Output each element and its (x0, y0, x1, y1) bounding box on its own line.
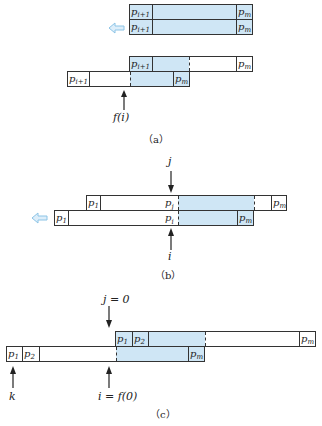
cell-1: p1 (116, 332, 133, 346)
text-row-a4: pi+1 pm (67, 71, 190, 87)
up-arrow-icon (9, 366, 17, 388)
cell-2: p2 (23, 347, 40, 361)
dashed-divider (130, 72, 131, 86)
pointer-label-f-i: f(i) (113, 111, 129, 124)
cell-right: pm (299, 332, 315, 346)
text-row-c2: p1 p2 pm (6, 346, 205, 362)
pointer-label-j0: j = 0 (103, 293, 130, 306)
cell-left: p1 (55, 211, 69, 225)
cell-1: p1 (7, 347, 23, 361)
left-hollow-arrow-icon (108, 22, 126, 34)
dashed-divider (178, 196, 179, 210)
pattern-row-a2: pi+1 pm (129, 19, 253, 35)
dashed-divider (254, 196, 255, 210)
caption-a: （a） (143, 131, 169, 146)
pointer-label-i: i (168, 250, 172, 263)
cell-right: pm (236, 57, 252, 71)
cell-left: pi+1 (130, 20, 153, 34)
pattern-row-a1: pi+1 pm (129, 4, 253, 20)
pointer-label-k: k (9, 390, 16, 403)
cell-right: pm (271, 196, 286, 210)
dashed-divider (116, 347, 117, 361)
dashed-divider (178, 211, 179, 225)
shaded-region (178, 196, 254, 210)
pattern-row-b1: p1 pj pm (86, 195, 287, 211)
pointer-label-j: j (168, 155, 171, 168)
cell-right: pm (173, 72, 189, 86)
cell-right: pm (236, 20, 252, 34)
down-arrow-icon (167, 171, 175, 193)
pattern-row-c1: p1 p2 pm (115, 331, 316, 347)
caption-c: （c） (150, 406, 176, 421)
cell-2: p2 (133, 332, 149, 346)
cell-right: pm (237, 211, 253, 225)
left-hollow-arrow-icon (31, 212, 49, 224)
up-arrow-icon (120, 90, 128, 110)
dashed-divider (205, 332, 206, 346)
cell-left: p1 (87, 196, 101, 210)
dashed-divider (189, 57, 190, 71)
pointer-label-i-f0: i = f(0) (98, 390, 137, 403)
down-arrow-icon (105, 306, 113, 328)
text-row-b2: p1 pi pm (54, 210, 254, 226)
caption-b: （b） (155, 267, 181, 282)
cell-left: pi+1 (130, 57, 153, 71)
cell-right: pm (236, 5, 252, 19)
cell-right: pm (188, 347, 204, 361)
cell-left: pi+1 (130, 5, 153, 19)
pattern-row-a3: pi+1 pm (129, 56, 253, 72)
up-arrow-icon (105, 366, 113, 388)
cell-left: pi+1 (68, 72, 90, 86)
up-arrow-icon (167, 228, 175, 250)
cell-mid: pi (165, 211, 174, 229)
